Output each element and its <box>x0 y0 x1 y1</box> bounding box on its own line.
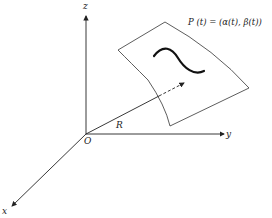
diagram-svg <box>0 0 272 218</box>
surface-curve <box>154 49 204 73</box>
curve-param-label: P (t) = (α(t), β(t)) <box>188 18 262 27</box>
position-vector-dashed <box>159 83 184 96</box>
surface-patch <box>118 22 249 126</box>
y-axis-label: y <box>226 130 231 139</box>
x-axis-label: x <box>2 207 7 216</box>
origin-label: O <box>84 137 91 146</box>
x-axis <box>12 134 86 206</box>
z-axis-label: z <box>83 2 88 11</box>
diagram-canvas: z y x O R P (t) = (α(t), β(t)) <box>0 0 272 218</box>
radius-vector-label: R <box>116 121 123 130</box>
